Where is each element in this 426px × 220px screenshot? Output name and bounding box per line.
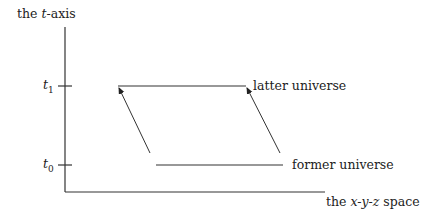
xyz-axis-label-suffix: space bbox=[379, 194, 419, 209]
t1-label-sub: 1 bbox=[48, 85, 54, 95]
former-universe-label: former universe bbox=[292, 159, 394, 172]
t1-label: t1 bbox=[43, 79, 54, 95]
t0-label-sub: 0 bbox=[48, 164, 54, 174]
right-evolution-arrow bbox=[247, 88, 280, 153]
t-axis-label: the t-axis bbox=[17, 8, 76, 21]
xyz-axis-label-prefix: the bbox=[326, 194, 350, 209]
xyz-axis-label: the x-y-z space bbox=[326, 196, 420, 209]
t0-label: t0 bbox=[43, 158, 54, 174]
latter-universe-label: latter universe bbox=[253, 80, 346, 93]
t-axis-label-suffix: -axis bbox=[46, 6, 75, 21]
diagram-canvas bbox=[0, 0, 426, 220]
t-axis-label-prefix: the bbox=[17, 6, 41, 21]
xyz-axis-label-var: x-y-z bbox=[350, 194, 379, 209]
left-evolution-arrow bbox=[119, 88, 150, 153]
